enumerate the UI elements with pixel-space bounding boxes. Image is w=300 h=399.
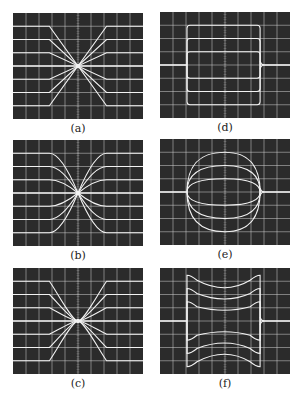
panel-label-c: (c)	[13, 378, 143, 390]
oscillogram-panel-c	[13, 268, 143, 374]
panel-label-d: (d)	[160, 122, 290, 134]
waveform-trace-d	[160, 12, 290, 118]
waveform-trace-c	[13, 268, 143, 374]
panel-label-b: (b)	[13, 250, 143, 262]
oscillogram-panel-d	[160, 12, 290, 118]
waveform-trace-b	[13, 140, 143, 246]
waveform-trace-e	[160, 139, 290, 245]
panel-label-e: (e)	[160, 249, 290, 261]
waveform-trace-a	[13, 13, 143, 119]
panel-label-a: (a)	[13, 123, 143, 135]
oscillogram-panel-e	[160, 139, 290, 245]
oscillogram-panel-f	[160, 268, 290, 374]
oscillogram-panel-b	[13, 140, 143, 246]
oscillogram-panel-a	[13, 13, 143, 119]
waveform-trace-f	[160, 268, 290, 374]
panel-label-f: (f)	[160, 378, 290, 390]
